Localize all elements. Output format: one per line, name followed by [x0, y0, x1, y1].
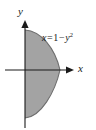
y-axis-arrowhead [21, 20, 28, 28]
equation-lhs: x [42, 32, 47, 43]
x-axis-arrowhead [66, 66, 74, 73]
x-axis-label: x [78, 63, 83, 74]
y-axis-label: y [18, 6, 23, 17]
parabola-figure: y x x=1−y2 [0, 0, 96, 130]
curve-equation-label: x=1−y2 [42, 33, 73, 43]
equation-exponent: 2 [70, 31, 73, 38]
shaded-region [25, 30, 60, 118]
